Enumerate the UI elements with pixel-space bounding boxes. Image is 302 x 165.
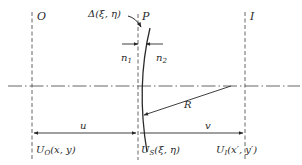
image-plane-label: I bbox=[250, 11, 254, 22]
medium-n1-label: n1 bbox=[121, 53, 132, 65]
point-p-label: P bbox=[142, 11, 149, 22]
aberration-label: Δ(ξ, η) bbox=[88, 9, 121, 19]
optical-diagram: O I Δ(ξ, η) P n1 n2 R u v UO(x, y) US(ξ,… bbox=[0, 0, 302, 165]
radius-label: R bbox=[184, 100, 192, 110]
medium-n2-label: n2 bbox=[156, 53, 167, 65]
object-field-label: UO(x, y) bbox=[36, 145, 76, 157]
object-plane-label: O bbox=[37, 11, 46, 22]
image-field-label: UI(x′, y′) bbox=[216, 145, 257, 157]
aberration-pointer bbox=[128, 16, 141, 27]
diagram-canvas bbox=[0, 0, 302, 165]
distance-v-label: v bbox=[205, 121, 211, 131]
surface-field-label: US(ξ, η) bbox=[141, 145, 180, 157]
distance-u-label: u bbox=[80, 121, 86, 131]
